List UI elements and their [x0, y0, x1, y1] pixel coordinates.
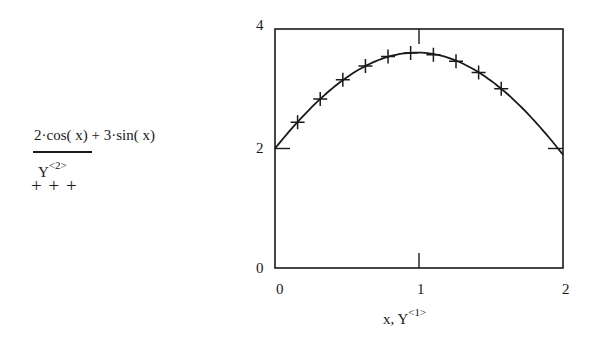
- plot-area: [0, 0, 600, 343]
- series2-plus-marker: [426, 48, 440, 62]
- x-axis-label-base: x, Y: [383, 311, 408, 327]
- series2-plus-marker: [449, 54, 463, 68]
- x-axis-label: x, Y<1>: [383, 311, 426, 328]
- y-tick-label-2: 2: [256, 140, 264, 157]
- series2-plus-marker: [358, 59, 372, 73]
- x-axis-label-sup: <1>: [408, 306, 426, 318]
- series2-plus-marker: [472, 66, 486, 80]
- series2-plus-marker: [404, 46, 418, 60]
- series2-plus-marker: [381, 49, 395, 63]
- series1-curve: [275, 53, 563, 155]
- x-tick-label-0: 0: [276, 281, 284, 298]
- y-tick-label-4: 4: [256, 17, 264, 34]
- plot-frame: [275, 29, 563, 268]
- x-tick-label-2: 2: [562, 281, 570, 298]
- x-tick-label-1: 1: [417, 281, 425, 298]
- y-tick-label-0: 0: [256, 260, 264, 277]
